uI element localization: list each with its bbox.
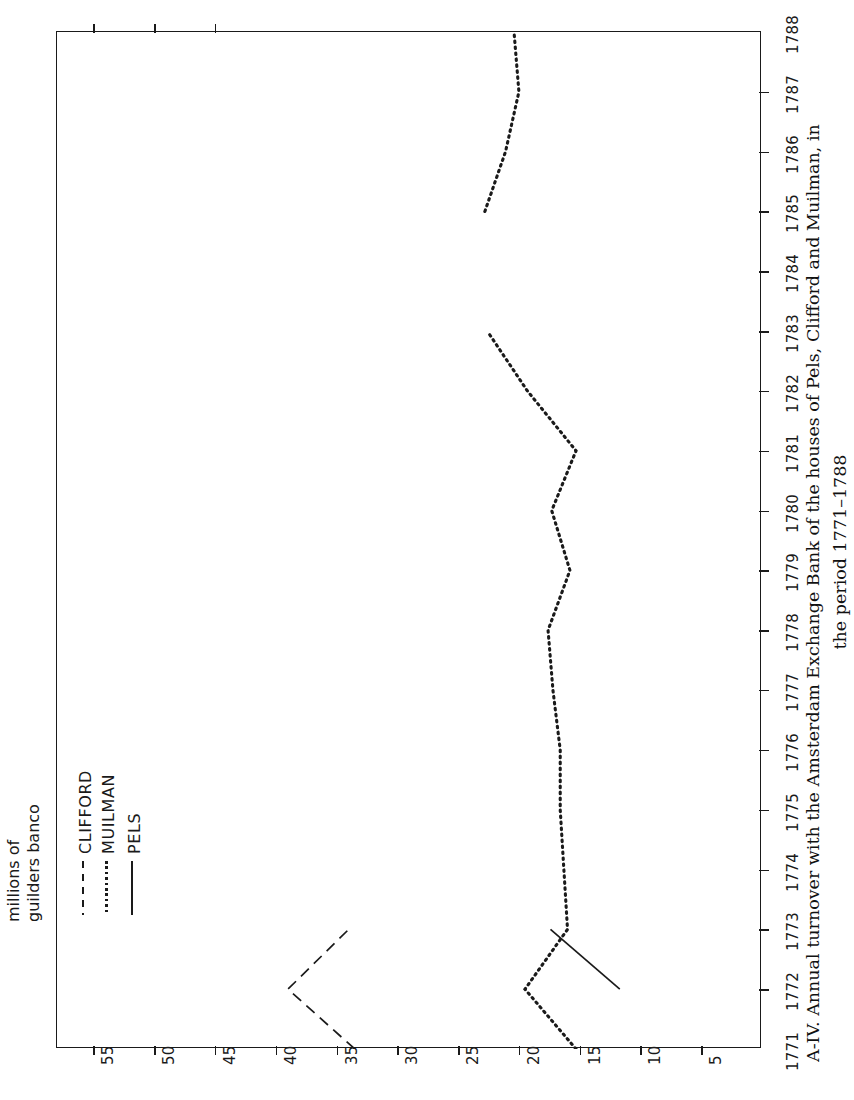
year-axis-tick <box>759 451 769 452</box>
value-axis-tick <box>701 1046 702 1055</box>
series-line-clifford <box>288 929 355 1049</box>
year-axis-tick <box>759 570 769 571</box>
legend: CLIFFORDMUILMANPELS <box>82 766 222 916</box>
year-axis-tick <box>759 331 769 332</box>
value-axis-tick <box>397 1046 398 1055</box>
legend-swatch-solid <box>131 861 133 915</box>
legend-swatch-dotted <box>105 861 108 915</box>
value-axis-tick <box>519 1046 520 1055</box>
value-axis-tick <box>154 1046 155 1055</box>
value-axis-label: 20 <box>525 1045 543 1065</box>
value-axis-tick <box>215 1046 216 1055</box>
value-axis-label: 10 <box>646 1045 664 1065</box>
year-axis-tick <box>759 211 769 212</box>
value-axis-label: 55 <box>99 1045 117 1065</box>
value-axis-tick <box>580 1046 581 1055</box>
value-axis-label: 5 <box>707 1055 725 1065</box>
value-axis-label: 25 <box>464 1045 482 1065</box>
series-line-muilman <box>487 331 576 1049</box>
value-axis-tick-top <box>93 24 94 33</box>
year-axis-tick <box>759 630 769 631</box>
year-axis-tick <box>759 929 769 930</box>
year-axis-tick <box>759 92 769 93</box>
year-axis-tick <box>759 152 769 153</box>
value-axis-tick-top <box>154 24 155 33</box>
year-axis-tick <box>759 391 769 392</box>
legend-swatch-dashed <box>82 861 84 915</box>
year-axis-tick <box>759 511 769 512</box>
legend-label: MUILMAN <box>99 774 118 854</box>
value-axis-label: 35 <box>343 1045 361 1065</box>
value-axis-tick <box>337 1046 338 1055</box>
value-axis-tick <box>276 1046 277 1055</box>
year-axis-tick <box>759 271 769 272</box>
value-axis-label: 50 <box>160 1045 178 1065</box>
value-axis-tick-top <box>215 24 216 33</box>
year-axis-tick <box>759 870 769 871</box>
value-axis-label: 30 <box>403 1045 421 1065</box>
axis-title-line-2: guilders banco <box>24 804 44 922</box>
series-line-pels <box>551 929 620 989</box>
value-axis-title: millions of guilders banco <box>4 804 44 922</box>
year-axis-tick <box>759 810 769 811</box>
value-axis-label: 40 <box>282 1045 300 1065</box>
figure-caption: A-IV. Annual turnover with the Amsterdam… <box>800 42 854 1062</box>
year-axis-tick <box>759 989 769 990</box>
series-line-muilman-later <box>485 32 519 211</box>
year-axis-tick <box>759 750 769 751</box>
legend-label: PELS <box>125 813 144 854</box>
value-axis-label: 45 <box>221 1045 239 1065</box>
value-axis-tick <box>640 1046 641 1055</box>
value-axis-tick <box>458 1046 459 1055</box>
caption-line-2: the period 1771–1788 <box>827 42 854 1062</box>
year-axis-tick <box>759 690 769 691</box>
axis-title-line-1: millions of <box>4 804 24 922</box>
value-axis-tick <box>93 1046 94 1055</box>
value-axis-label: 15 <box>586 1045 604 1065</box>
legend-label: CLIFFORD <box>76 770 95 854</box>
caption-line-1: A-IV. Annual turnover with the Amsterdam… <box>800 42 827 1062</box>
